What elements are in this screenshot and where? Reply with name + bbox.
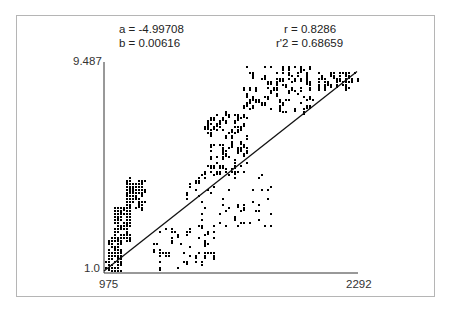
scatter-plot (0, 0, 451, 314)
data-points (105, 66, 359, 272)
regression-line (104, 72, 357, 271)
